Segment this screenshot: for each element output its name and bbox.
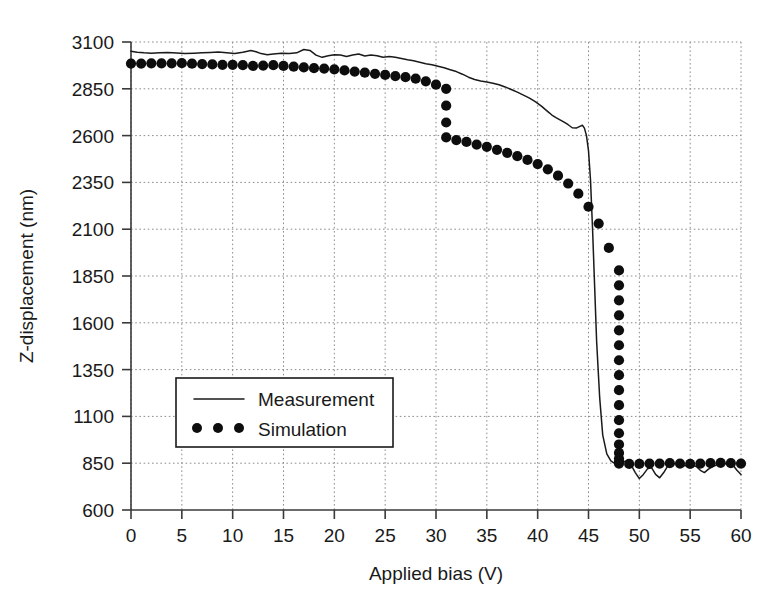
x-tick-label-2: 10 (222, 525, 243, 546)
simulation-point-4 (167, 58, 177, 68)
simulation-point-22 (350, 66, 360, 76)
simulation-point-24 (370, 69, 380, 79)
simulation-point-77 (716, 458, 726, 468)
y-axis-title: Z-displacement (nm) (16, 189, 37, 363)
simulation-point-15 (278, 61, 288, 71)
simulation-point-62 (614, 428, 624, 438)
y-tick-label-9: 2850 (72, 79, 114, 100)
simulation-point-9 (217, 60, 227, 70)
simulation-point-49 (594, 218, 604, 228)
simulation-point-42 (522, 155, 532, 165)
simulation-point-43 (533, 159, 543, 169)
simulation-point-18 (309, 63, 319, 73)
x-tick-label-1: 5 (177, 525, 188, 546)
simulation-point-48 (583, 202, 593, 212)
y-tick-label-8: 2600 (72, 126, 114, 147)
simulation-point-73 (675, 458, 685, 468)
simulation-point-50 (604, 243, 614, 253)
y-tick-label-4: 1600 (72, 313, 114, 334)
x-tick-label-11: 55 (680, 525, 701, 546)
simulation-point-36 (461, 137, 471, 147)
simulation-point-20 (329, 64, 339, 74)
simulation-point-21 (339, 65, 349, 75)
simulation-point-40 (502, 148, 512, 158)
simulation-point-5 (177, 58, 187, 68)
simulation-point-41 (512, 151, 522, 161)
z-displacement-vs-bias-chart: 6008501100135016001850210023502600285031… (0, 0, 780, 607)
simulation-point-1 (136, 58, 146, 68)
simulation-point-17 (299, 62, 309, 72)
simulation-point-26 (390, 71, 400, 81)
simulation-point-71 (655, 458, 665, 468)
simulation-point-54 (614, 310, 624, 320)
simulation-point-55 (614, 325, 624, 335)
y-tick-label-3: 1350 (72, 360, 114, 381)
simulation-point-67 (614, 458, 624, 468)
simulation-point-28 (411, 74, 421, 84)
simulation-point-11 (238, 60, 248, 70)
x-tick-label-3: 15 (273, 525, 294, 546)
legend-simulation-dot-1 (192, 423, 202, 433)
simulation-point-19 (319, 63, 329, 73)
x-tick-label-6: 30 (425, 525, 446, 546)
simulation-point-58 (614, 370, 624, 380)
simulation-point-30 (431, 80, 441, 90)
legend-simulation-dot-3 (234, 423, 244, 433)
x-tick-label-10: 50 (629, 525, 650, 546)
simulation-point-78 (726, 458, 736, 468)
simulation-point-56 (614, 340, 624, 350)
y-tick-label-2: 1100 (73, 406, 114, 427)
simulation-point-33 (441, 117, 451, 127)
simulation-point-10 (228, 60, 238, 70)
x-tick-label-4: 20 (324, 525, 345, 546)
simulation-point-29 (421, 76, 431, 86)
y-tick-label-7: 2350 (72, 172, 114, 193)
simulation-point-35 (451, 135, 461, 145)
simulation-point-38 (482, 142, 492, 152)
figure-background (0, 0, 780, 607)
x-tick-label-0: 0 (126, 525, 137, 546)
simulation-point-39 (492, 145, 502, 155)
simulation-point-57 (614, 355, 624, 365)
simulation-point-79 (736, 458, 746, 468)
simulation-point-12 (248, 61, 258, 71)
simulation-point-47 (573, 189, 583, 199)
simulation-point-13 (258, 60, 268, 70)
simulation-point-52 (614, 280, 624, 290)
simulation-point-76 (705, 458, 715, 468)
x-axis-title: Applied bias (V) (369, 563, 503, 584)
simulation-point-34 (441, 132, 451, 142)
y-tick-label-1: 850 (82, 453, 114, 474)
legend-simulation-dot-2 (213, 423, 223, 433)
simulation-point-3 (156, 58, 166, 68)
simulation-point-25 (380, 70, 390, 80)
legend-label-simulation: Simulation (258, 419, 347, 440)
simulation-point-69 (634, 459, 644, 469)
x-tick-label-8: 40 (527, 525, 548, 546)
simulation-point-7 (197, 59, 207, 69)
simulation-point-23 (360, 68, 370, 78)
simulation-point-51 (614, 265, 624, 275)
simulation-point-31 (441, 84, 451, 94)
simulation-point-59 (614, 385, 624, 395)
simulation-point-60 (614, 400, 624, 410)
y-tick-label-0: 600 (82, 500, 114, 521)
legend-label-measurement: Measurement (258, 389, 375, 410)
simulation-point-32 (441, 101, 451, 111)
x-tick-label-5: 25 (375, 525, 396, 546)
simulation-point-14 (268, 60, 278, 70)
simulation-point-75 (695, 458, 705, 468)
x-tick-label-12: 60 (730, 525, 751, 546)
simulation-point-0 (126, 58, 136, 68)
chart-legend: Measurement Simulation (176, 378, 393, 447)
simulation-point-37 (472, 139, 482, 149)
x-tick-label-9: 45 (578, 525, 599, 546)
simulation-point-46 (563, 178, 573, 188)
simulation-point-45 (553, 171, 563, 181)
simulation-point-68 (624, 459, 634, 469)
simulation-point-8 (207, 59, 217, 69)
y-tick-label-5: 1850 (72, 266, 114, 287)
x-tick-label-7: 35 (476, 525, 497, 546)
simulation-point-2 (146, 58, 156, 68)
simulation-point-70 (644, 458, 654, 468)
